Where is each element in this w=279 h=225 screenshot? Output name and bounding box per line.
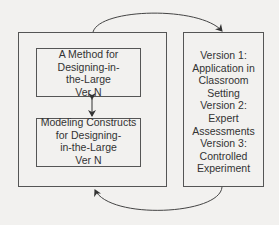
top-curved-arrow (93, 13, 222, 32)
connector-arrows (0, 0, 279, 225)
bottom-curved-arrow (95, 187, 222, 210)
